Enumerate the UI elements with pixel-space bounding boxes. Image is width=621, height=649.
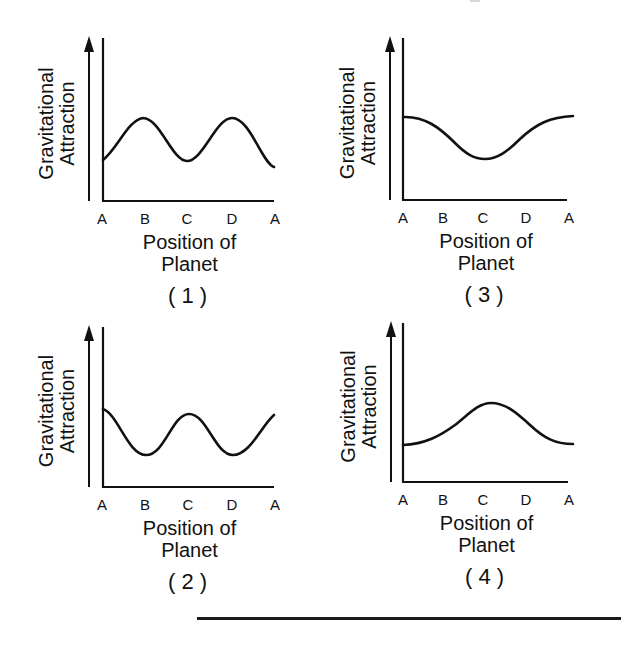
arrow-up-icon (84, 325, 94, 341)
gravitational-attraction-curve (403, 403, 573, 445)
x-tick-label: B (438, 209, 448, 226)
bottom-divider-rule (197, 617, 621, 620)
chart-panel-2: GravitationalAttractionABCDAPosition ofP… (35, 325, 280, 594)
x-tick-label: A (97, 210, 107, 227)
gravitational-attraction-curve (103, 118, 274, 167)
y-axis-label-line2: Attraction (56, 369, 78, 453)
y-axis-label-line2: Attraction (56, 81, 78, 165)
x-tick-label: A (270, 210, 280, 227)
x-axis-label-line1: Position of (440, 512, 534, 534)
x-tick-label: C (182, 210, 193, 227)
y-axis-label-line1: Gravitational (35, 355, 57, 467)
four-panel-gravitational-attraction-figure: GravitationalAttractionABCDAPosition ofP… (0, 0, 621, 649)
x-tick-label: A (564, 209, 574, 226)
x-axis-label-line1: Position of (143, 231, 237, 253)
x-tick-label: A (398, 209, 408, 226)
x-tick-label: C (183, 496, 194, 513)
figure-option-caption: ( 1 ) (168, 283, 207, 308)
figure-option-caption: ( 3 ) (464, 282, 503, 307)
arrow-up-icon (84, 36, 94, 52)
x-tick-label: A (564, 491, 574, 508)
y-axis-label-line1: Gravitational (337, 350, 359, 462)
x-axis-label-line2: Planet (161, 253, 218, 275)
x-tick-label: D (227, 210, 238, 227)
y-axis-label-line2: Attraction (357, 81, 379, 165)
x-tick-label: C (478, 209, 489, 226)
x-axis-label-line1: Position of (439, 230, 533, 252)
gravitational-attraction-curve (103, 409, 274, 455)
arrow-up-icon (385, 36, 395, 52)
x-axis-label-line1: Position of (143, 517, 237, 539)
x-tick-label: D (227, 496, 238, 513)
arrow-up-icon (386, 321, 396, 337)
y-axis-label-line1: Gravitational (336, 67, 358, 179)
x-tick-label: B (140, 496, 150, 513)
chart-panel-3: GravitationalAttractionABCDAPosition ofP… (336, 36, 574, 307)
x-tick-label: B (140, 210, 150, 227)
chart-panel-4: GravitationalAttractionABCDAPosition ofP… (337, 321, 574, 589)
figure-option-caption: ( 2 ) (168, 569, 207, 594)
x-tick-label: D (521, 209, 532, 226)
x-tick-label: A (398, 491, 408, 508)
x-tick-label: C (478, 491, 489, 508)
x-tick-label: A (97, 496, 107, 513)
chart-panel-1: GravitationalAttractionABCDAPosition ofP… (35, 36, 280, 308)
x-axis-label-line2: Planet (458, 252, 515, 274)
x-tick-label: A (270, 496, 280, 513)
x-axis-label-line2: Planet (458, 534, 515, 556)
x-tick-label: B (438, 491, 448, 508)
x-tick-label: D (521, 491, 532, 508)
gravitational-attraction-curve (403, 116, 573, 159)
y-axis-label-line2: Attraction (358, 364, 380, 448)
x-axis-label-line2: Planet (161, 539, 218, 561)
y-axis-label-line1: Gravitational (35, 67, 57, 179)
figure-option-caption: ( 4 ) (465, 564, 504, 589)
